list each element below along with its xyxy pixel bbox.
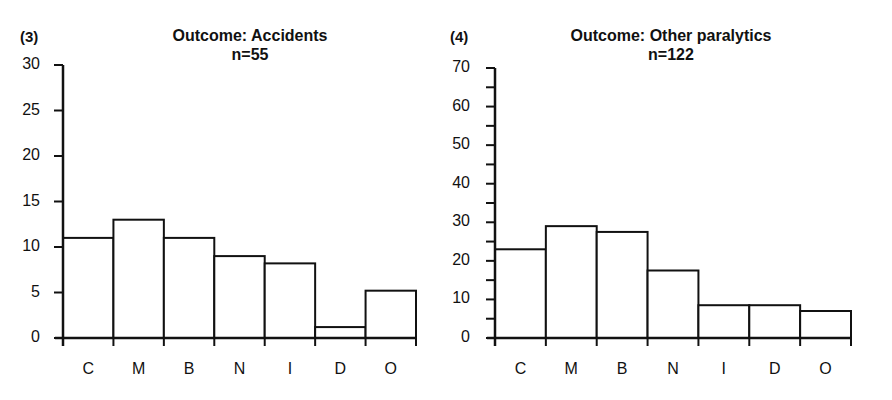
bar-m xyxy=(113,220,163,338)
bar-i xyxy=(265,263,315,338)
bar-chart-plot xyxy=(446,0,892,400)
chart-panel-other-paralytics: (4) Outcome: Other paralytics n=122 0102… xyxy=(446,0,892,400)
bar-n xyxy=(214,256,264,338)
chart-panel-accidents: (3) Outcome: Accidents n=55 051015202530… xyxy=(0,0,446,400)
bar-o xyxy=(366,291,416,338)
bar-d xyxy=(749,305,800,338)
bar-i xyxy=(698,305,749,338)
bar-c xyxy=(495,249,546,338)
bar-n xyxy=(648,271,699,339)
bar-m xyxy=(546,226,597,338)
bar-chart-plot xyxy=(0,0,446,400)
bar-c xyxy=(63,238,113,338)
bar-o xyxy=(800,311,851,338)
bar-d xyxy=(315,327,365,338)
bar-b xyxy=(164,238,214,338)
bar-b xyxy=(597,232,648,338)
